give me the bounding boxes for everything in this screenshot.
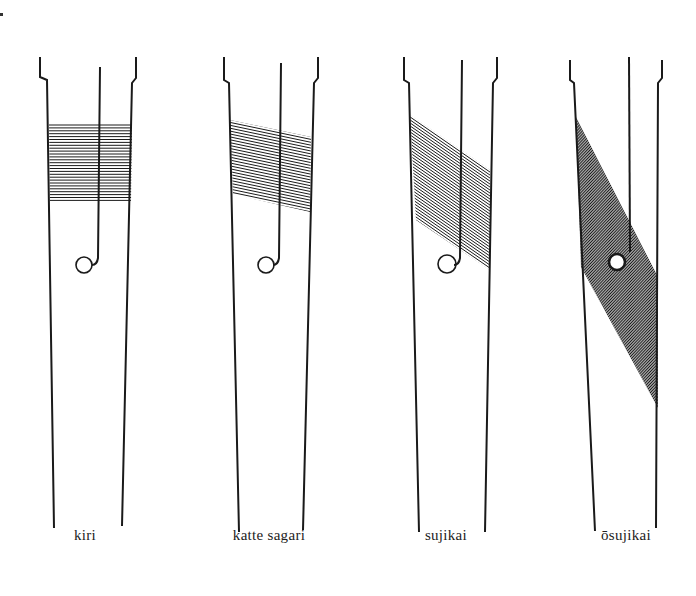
tang-sujikai <box>400 57 500 532</box>
diagram: kiri katte sagari sujikai ōsujikai <box>0 0 696 596</box>
label-kiri: kiri <box>5 527 165 544</box>
label-sujikai: sujikai <box>366 527 526 544</box>
corner-mark <box>0 13 3 16</box>
tang-osujikai <box>560 57 670 596</box>
label-katte-sagari: katte sagari <box>189 527 349 544</box>
tang-katte-sagari <box>220 57 320 532</box>
tang-kiri <box>40 57 140 528</box>
tang-diagrams <box>0 0 696 596</box>
label-osujikai: ōsujikai <box>546 527 696 544</box>
